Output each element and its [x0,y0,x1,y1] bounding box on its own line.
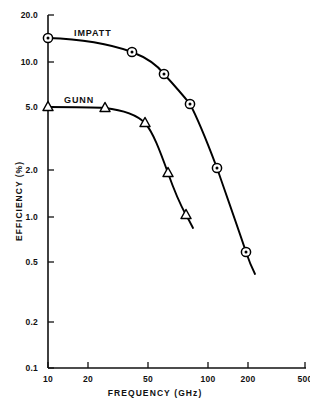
series-line-impatt [48,38,255,274]
series-markers-impatt [43,33,250,256]
y-axis-ticks [48,15,54,368]
axis-lines [48,15,306,368]
series-line-gunn [48,107,193,228]
x-axis-ticks [48,362,305,368]
efficiency-vs-frequency-chart: EFFICIENCY (%) FREQUENCY (GHz) 20.0 10.0… [0,0,310,406]
series-markers-gunn [43,102,191,219]
plot-canvas [0,0,310,406]
